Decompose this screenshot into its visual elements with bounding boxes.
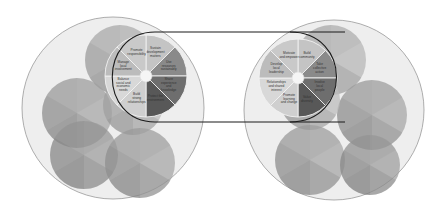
right-bubble (275, 125, 345, 195)
left-cluster: SustaindevelopmentmattersUseresourcessus… (22, 17, 204, 199)
right-wheel: BuildcommunityTakecollectiveactionInvolv… (259, 39, 337, 117)
diagram-canvas: SustaindevelopmentmattersUseresourcessus… (0, 0, 444, 220)
right-cluster: BuildcommunityTakecollectiveactionInvolv… (244, 20, 424, 200)
left-bubble (105, 128, 175, 198)
left-wheel-segment-label: Protect theenvironment (147, 94, 165, 102)
left-wheel: SustaindevelopmentmattersUseresourcessus… (105, 35, 187, 117)
left-wheel-hub (140, 70, 152, 82)
right-bubble (340, 135, 400, 195)
right-wheel-hub (292, 72, 304, 84)
